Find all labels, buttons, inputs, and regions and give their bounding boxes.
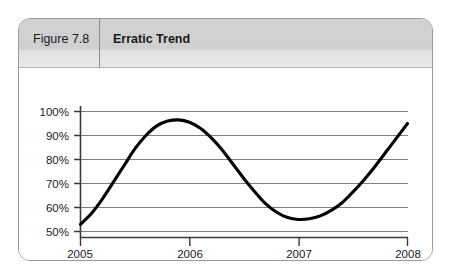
y-tick-label-60: 60% <box>27 201 69 215</box>
y-tick-label-90: 90% <box>27 129 69 143</box>
line-chart-svg <box>19 68 433 261</box>
y-tick-label-80: 80% <box>27 153 69 167</box>
chart-plot-area: 100% 90% 80% 70% 60% 50% 2005 2006 2007 … <box>19 68 433 261</box>
y-tick-label-100: 100% <box>27 105 69 119</box>
y-tick-label-70: 70% <box>27 177 69 191</box>
header-divider <box>99 19 100 68</box>
x-tick-label-2006: 2006 <box>167 247 213 261</box>
axis-lines <box>80 106 408 238</box>
y-tick-label-50: 50% <box>27 225 69 239</box>
y-axis-ticks <box>74 112 80 232</box>
x-axis-ticks <box>81 238 408 246</box>
x-tick-label-2007: 2007 <box>276 247 322 261</box>
figure-card: Figure 7.8 Erratic Trend <box>18 18 433 261</box>
gridlines <box>80 112 408 232</box>
figure-title-label: Erratic Trend <box>113 29 190 49</box>
x-tick-label-2005: 2005 <box>57 247 103 261</box>
figure-number-label: Figure 7.8 <box>33 29 89 49</box>
figure-header: Figure 7.8 Erratic Trend <box>19 19 432 68</box>
x-tick-label-2008: 2008 <box>385 247 431 261</box>
